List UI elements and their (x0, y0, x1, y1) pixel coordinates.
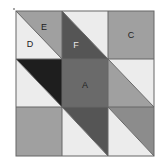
label-c: C (128, 30, 135, 40)
corner-marker (13, 8, 15, 10)
label-f: F (73, 40, 79, 50)
label-e: E (41, 22, 47, 32)
label-d: D (27, 39, 34, 49)
label-a: A (82, 80, 88, 90)
piece-bottom-left-mid (16, 107, 62, 156)
quilt-diagram: E D F C A (0, 0, 163, 166)
